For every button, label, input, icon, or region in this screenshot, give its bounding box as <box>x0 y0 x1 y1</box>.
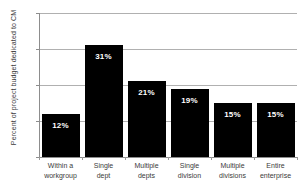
x-axis-tick-mark <box>82 157 83 160</box>
x-axis-category-label: Multipledivisions <box>211 161 254 180</box>
x-axis-category-line: Entire <box>254 161 297 171</box>
bar-value-label: 15% <box>257 110 295 119</box>
bar-column: 15% <box>257 103 295 157</box>
y-axis-title: Percent of project budget dedicated to C… <box>10 3 17 153</box>
x-axis-category-line: Within a <box>39 161 82 171</box>
bar-value-label: 15% <box>214 110 252 119</box>
x-axis-category-line: divisions <box>211 171 254 181</box>
x-axis-category-line: Single <box>82 161 125 171</box>
bar-column: 21% <box>128 81 166 157</box>
x-axis-category-line: Single <box>168 161 211 171</box>
bar-value-label: 19% <box>171 96 209 105</box>
x-axis-category-line: division <box>168 171 211 181</box>
x-axis-category-line: Multiple <box>211 161 254 171</box>
chart-title-remnant <box>26 0 146 2</box>
bar-value-label: 21% <box>128 88 166 97</box>
bar-value-label: 12% <box>42 121 80 130</box>
bar-chart: Percent of project budget dedicated to C… <box>0 0 302 194</box>
x-axis-category-label: Within aworkgroup <box>39 161 82 180</box>
x-axis-tick-mark <box>297 157 298 160</box>
bar: 19% <box>171 89 209 157</box>
bar: 15% <box>214 103 252 157</box>
x-axis-category-label: Multipledepts <box>125 161 168 180</box>
x-axis-category-line: dept <box>82 171 125 181</box>
x-axis-tick-mark <box>39 157 40 160</box>
x-axis-category-label: Singledivision <box>168 161 211 180</box>
x-axis-category-line: depts <box>125 171 168 181</box>
bar: 12% <box>42 114 80 157</box>
x-axis-tick-mark <box>125 157 126 160</box>
bar-column: 19% <box>171 89 209 157</box>
bar-series: 12%31%21%19%15%15% <box>39 13 297 157</box>
bar: 21% <box>128 81 166 157</box>
bar-column: 15% <box>214 103 252 157</box>
x-axis-category-line: enterprise <box>254 171 297 181</box>
x-axis-tick-mark <box>211 157 212 160</box>
bar: 15% <box>257 103 295 157</box>
x-axis-category-label: Entireenterprise <box>254 161 297 180</box>
x-axis-tick-mark <box>254 157 255 160</box>
x-axis-category-label: Singledept <box>82 161 125 180</box>
bar-column: 31% <box>85 45 123 157</box>
bar-column: 12% <box>42 114 80 157</box>
x-axis-category-line: workgroup <box>39 171 82 181</box>
bar-value-label: 31% <box>85 52 123 61</box>
x-axis-category-line: Multiple <box>125 161 168 171</box>
x-axis-labels: Within aworkgroupSingledeptMultipledepts… <box>39 161 297 191</box>
bar: 31% <box>85 45 123 157</box>
x-axis-tick-mark <box>168 157 169 160</box>
